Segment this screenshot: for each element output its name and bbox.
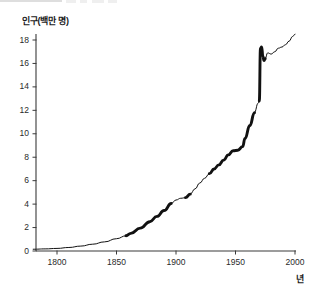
x-tick-label: 1900	[159, 257, 193, 267]
y-tick-label: 16	[11, 58, 29, 68]
y-tick-label: 6	[11, 175, 29, 185]
series-segment	[265, 34, 295, 59]
population-series	[33, 34, 295, 249]
chart-page: 인구(백만 명) 년 024681012141618 1800185019001…	[0, 0, 317, 295]
x-tick-label: 2000	[278, 257, 312, 267]
x-tick-label: 1800	[40, 257, 74, 267]
series-segment-bold	[126, 204, 171, 236]
y-tick-label: 2	[11, 222, 29, 232]
y-tick-label: 18	[11, 35, 29, 45]
y-tick-label: 10	[11, 128, 29, 138]
series-segment-bold	[209, 113, 254, 174]
series-segment-bold	[186, 194, 191, 198]
y-tick-label: 14	[11, 81, 29, 91]
axis-group	[36, 34, 296, 251]
y-tick-label: 12	[11, 105, 29, 115]
x-tick-label: 1850	[100, 257, 134, 267]
y-tick-label: 8	[11, 152, 29, 162]
series-segment	[33, 236, 126, 249]
series-segment-bold	[259, 47, 265, 101]
series-segment	[255, 101, 260, 113]
line-chart-plot	[0, 0, 317, 295]
x-tick-label: 1950	[219, 257, 253, 267]
series-segment	[171, 198, 185, 204]
y-tick-label: 4	[11, 199, 29, 209]
series-segment	[190, 174, 209, 195]
y-tick-label: 0	[11, 246, 29, 256]
